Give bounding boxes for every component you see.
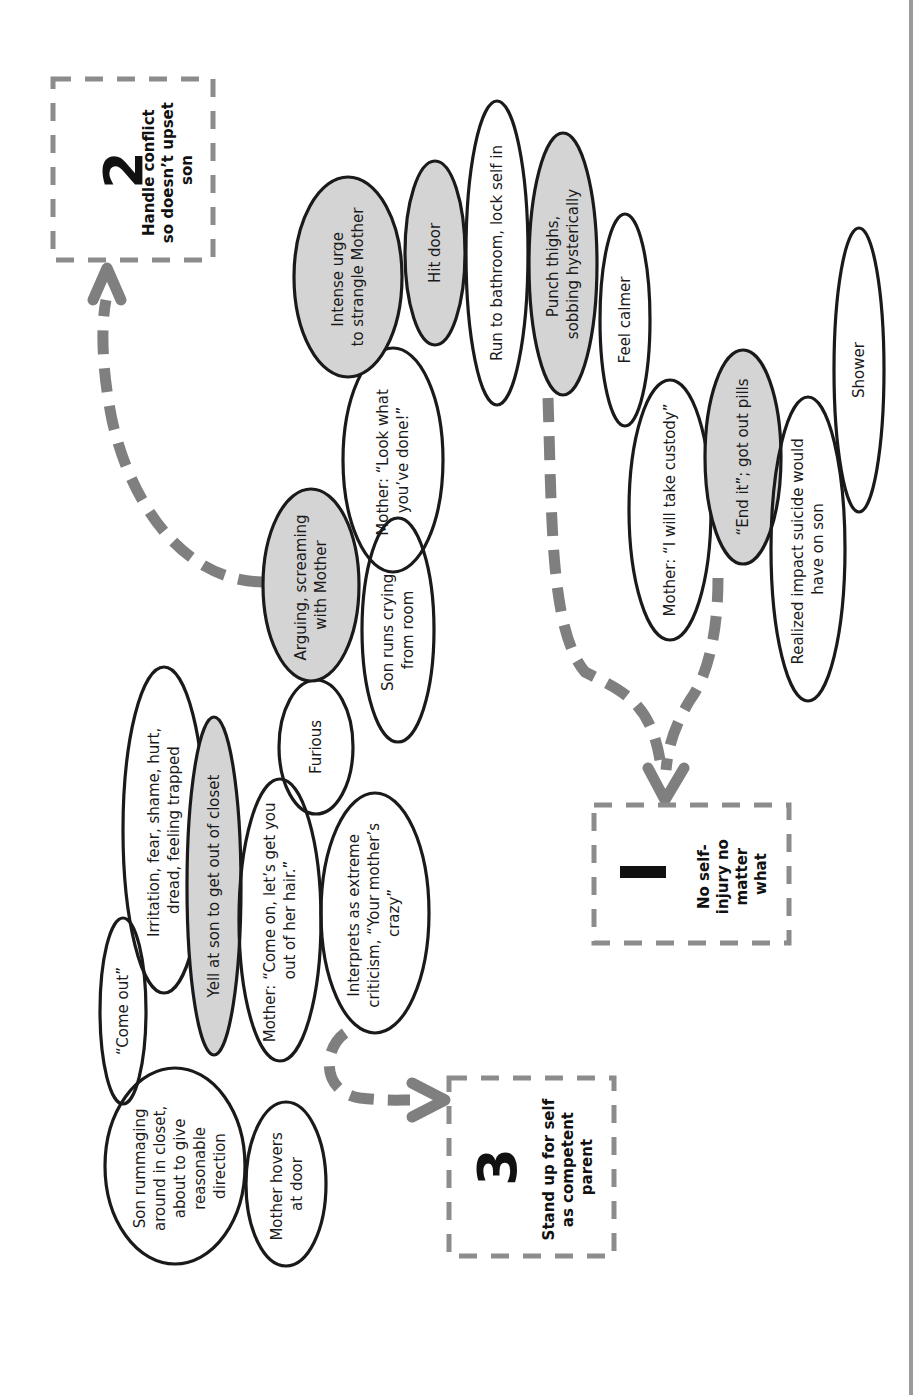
node-shower: Shower [834, 228, 884, 512]
goal-box-3: 3 Stand up for self as competent parent [449, 1078, 614, 1256]
arrow-arguing-to-goal-2 [93, 268, 262, 582]
goal-number: 3 [466, 1148, 529, 1186]
node-feel-calmer: Feel calmer [600, 214, 650, 426]
svg-text:Yell at son to get out of clos: Yell at son to get out of closet [205, 774, 223, 998]
node-yell-at-son: Yell at son to get out of closet [187, 717, 241, 1055]
node-end-it-pills: “End it”; got out pills [705, 350, 781, 564]
arrow-interprets-to-goal-3 [329, 1033, 445, 1117]
goal-box-2: 2 Handle conflict so doesn’t upset son [53, 79, 213, 260]
node-mother-hovers: Mother hovers at door [246, 1102, 326, 1266]
node-interprets-criticism: Interprets as extreme criticism, “Your m… [321, 793, 429, 1033]
svg-text:Shower: Shower [850, 341, 868, 398]
svg-text:Furious: Furious [307, 720, 325, 774]
svg-text:Hit door: Hit door [426, 222, 444, 283]
node-mother-custody: Mother: “I will take custody” [629, 380, 711, 640]
svg-text:3: 3 [466, 1148, 529, 1186]
node-punch-thighs: Punch thighs, sobbing hysterically [529, 133, 597, 395]
node-intense-urge: Intense urge to strangle Mother [294, 177, 402, 377]
svg-text:“End it”; got out pills: “End it”; got out pills [734, 378, 752, 535]
svg-text:Stand up for self as com: Stand up for self as competent parent [540, 1094, 596, 1241]
svg-text:“Come out”: “Come out” [114, 967, 132, 1055]
svg-text:No self- injury no: No self- injury no matter what [695, 834, 770, 914]
svg-text:Handle conflict so doesn: Handle conflict so doesn’t upset son [140, 97, 196, 243]
node-arguing-screaming: Arguing, screaming with Mother [263, 489, 359, 681]
chain-analysis-diagram: Son rummaging around in closet, about to… [0, 0, 918, 1395]
node-furious: Furious [279, 680, 353, 814]
goal-1-bar [620, 866, 666, 878]
node-label: Son rummaging [131, 1109, 149, 1229]
goal-box-1: No self- injury no matter what [594, 805, 789, 943]
node-realized-impact: Realized impact suicide would have on so… [771, 397, 845, 701]
node-hit-door: Hit door [405, 161, 465, 345]
node-mother-look-what: Mother: “Look what you’ve done!” [343, 348, 443, 572]
svg-text:Run to bathroom, lock self in: Run to bathroom, lock self in [488, 145, 506, 361]
node-mother-come-on: Mother: “Come on, let’s get you out of h… [239, 779, 321, 1061]
svg-text:Feel calmer: Feel calmer [616, 276, 634, 364]
svg-text:Mother: “I will take custody”: Mother: “I will take custody” [661, 404, 679, 617]
node-run-to-bathroom: Run to bathroom, lock self in [466, 101, 528, 405]
